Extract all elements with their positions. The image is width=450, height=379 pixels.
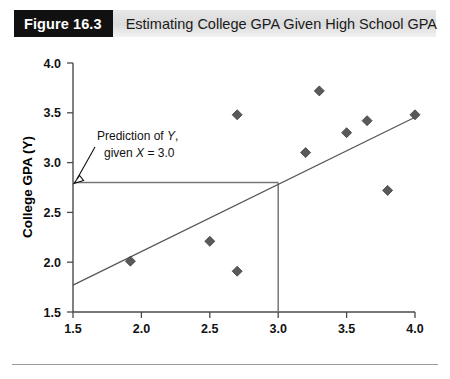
data-point — [342, 128, 352, 138]
annotation-arrow-line — [77, 147, 95, 179]
data-point — [205, 236, 215, 246]
x-axis-ticks — [73, 312, 415, 318]
data-point — [232, 110, 242, 120]
data-point — [383, 185, 393, 195]
figure-container: Figure 16.3 Estimating College GPA Given… — [0, 0, 450, 379]
annotation-line-2: given X = 3.0 — [104, 146, 175, 160]
y-tick-label: 3.0 — [44, 156, 61, 170]
y-tick-label: 2.5 — [44, 206, 61, 220]
x-tick-label: 1.5 — [64, 322, 81, 336]
data-point — [232, 266, 242, 276]
prediction-guide-lines — [73, 182, 278, 312]
y-tick-label: 4.0 — [44, 57, 61, 71]
data-point — [314, 86, 324, 96]
data-point — [362, 116, 372, 126]
y-axis-title: College GPA (Y) — [20, 136, 35, 238]
x-tick-label: 3.5 — [338, 322, 355, 336]
x-tick-label: 4.0 — [406, 322, 423, 336]
figure-caption: Estimating College GPA Given High School… — [113, 10, 437, 37]
figure-number-label: Figure 16.3 — [14, 10, 113, 37]
x-tick-label: 2.5 — [201, 322, 218, 336]
y-axis-tick-labels: 4.0 3.5 3.0 2.5 2.0 1.5 — [44, 57, 61, 320]
y-tick-label: 3.5 — [44, 106, 61, 120]
y-axis-ticks — [67, 63, 73, 312]
x-axis-tick-labels: 1.5 2.0 2.5 3.0 3.5 4.0 — [64, 322, 423, 336]
x-tick-label: 3.0 — [270, 322, 287, 336]
data-points — [125, 86, 420, 276]
y-tick-label: 2.0 — [44, 256, 61, 270]
annotation-line-1: Prediction of Y, — [97, 129, 178, 143]
prediction-annotation: Prediction of Y, given X = 3.0 — [74, 129, 178, 184]
plot-svg: 4.0 3.5 3.0 2.5 2.0 1.5 1.5 2.0 2.5 3. — [0, 37, 450, 342]
scatter-plot: 4.0 3.5 3.0 2.5 2.0 1.5 1.5 2.0 2.5 3. — [0, 37, 450, 342]
y-tick-label: 1.5 — [44, 306, 61, 320]
data-point — [301, 148, 311, 158]
data-point — [125, 256, 135, 266]
bottom-divider — [12, 364, 438, 365]
figure-title-banner: Figure 16.3 Estimating College GPA Given… — [14, 10, 436, 37]
data-point — [410, 110, 420, 120]
x-tick-label: 2.0 — [133, 322, 150, 336]
